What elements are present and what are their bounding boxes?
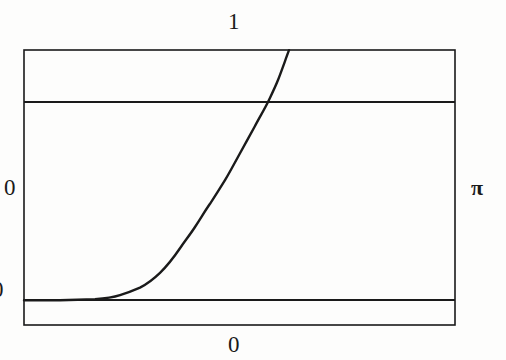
axis-label-left-lower: 0 (0, 278, 4, 301)
exponential-curve (24, 50, 289, 300)
axis-label-right-pi: π (471, 177, 483, 199)
plot-svg (0, 0, 506, 360)
axis-label-top: 1 (228, 10, 240, 33)
axis-label-bottom: 0 (228, 333, 240, 356)
axis-label-left-upper: 0 (4, 176, 16, 199)
plot-frame-border (24, 50, 455, 325)
figure-container: 1 0 0 π 0 (0, 0, 506, 360)
